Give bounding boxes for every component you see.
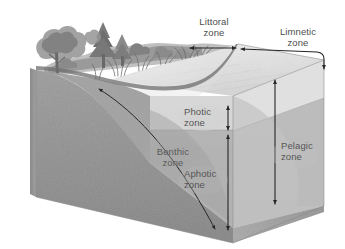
lake-zonation-diagram: Littoral zone Limnetic zone Photic zone … — [0, 0, 345, 249]
sediment-left-wall — [30, 68, 36, 197]
lake-zonation-illustration — [0, 0, 345, 249]
